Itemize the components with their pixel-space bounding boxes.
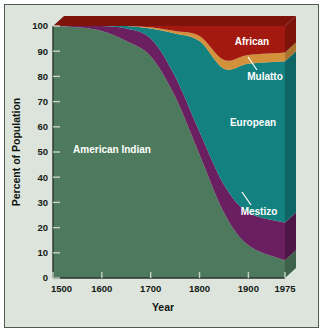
y-tick-label: 10 [37,247,48,258]
y-tick-label: 60 [37,121,48,132]
x-tick-label: 1900 [238,283,259,294]
y-tick-label: 80 [37,71,48,82]
x-tick-label: 1600 [91,283,112,294]
y-tick-label: 30 [37,197,48,208]
y-tick-label: 100 [32,20,48,31]
series-label-mestizo: Mestizo [241,206,278,217]
side-face-european [285,51,296,222]
y-tick-label: 0 [43,272,48,283]
series-label-mulatto: Mulatto [247,71,283,82]
x-tick-label: 1800 [189,283,210,294]
y-axis-title: Percent of Population [10,98,22,207]
y-tick-label: 70 [37,96,48,107]
y-tick-label: 20 [37,222,48,233]
x-axis-title: Year [152,301,174,313]
x-tick-label: 1500 [51,283,72,294]
population-composition-area-chart: 0102030405060708090100 15001600170018001… [0,0,325,334]
chart-top-face-3d [53,16,296,26]
series-label-european: European [230,117,276,128]
series-label-american-indian: American Indian [73,144,151,155]
x-tick-label: 1700 [140,283,161,294]
chart-side-face-3d [285,16,296,278]
y-tick-label: 50 [37,146,48,157]
chart-figure: 0102030405060708090100 15001600170018001… [0,0,325,334]
series-label-african: African [235,36,269,47]
x-tick-label: 1975 [274,283,296,294]
y-tick-label: 40 [37,172,48,183]
y-tick-label: 90 [37,46,48,57]
